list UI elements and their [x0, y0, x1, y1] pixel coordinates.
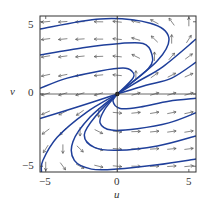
vector-arrow [184, 147, 193, 150]
vector-arrow [132, 37, 141, 40]
y-tick-label-0: 0 [28, 87, 34, 98]
vector-arrow [60, 163, 65, 170]
vector-arrow [41, 74, 50, 77]
vector-arrow [151, 36, 157, 42]
vector-arrow [61, 144, 64, 153]
vector-arrow [94, 74, 103, 77]
vector-arrow [95, 130, 103, 134]
y-axis-label: v [10, 86, 15, 97]
vector-arrow [150, 111, 159, 114]
x-tick-label-0: 0 [114, 176, 120, 187]
vector-arrow [94, 165, 103, 168]
vector-arrow [185, 54, 192, 59]
vector-arrow [186, 35, 191, 43]
y-tick-label-5: 5 [28, 19, 34, 30]
vector-arrow [167, 147, 176, 150]
vector-arrow [169, 18, 174, 25]
vector-arrow [132, 54, 140, 58]
vector-arrow [76, 55, 85, 58]
x-axis-label: u [114, 189, 120, 200]
vector-arrow [184, 130, 193, 133]
x-tick-label-neg5: −5 [39, 176, 51, 187]
y-tick-label-neg5: −5 [22, 160, 34, 171]
vector-arrow [131, 130, 140, 133]
vector-arrow [77, 146, 83, 152]
vector-arrow [167, 130, 176, 133]
vector-arrow [170, 35, 173, 44]
vector-arrow [42, 129, 49, 134]
x-tick-label-5: 5 [186, 176, 192, 187]
vector-arrow [58, 55, 67, 58]
vector-arrow [185, 73, 193, 77]
plot-area [0, 0, 207, 209]
vector-arrow [41, 38, 50, 41]
vector-arrow [94, 55, 103, 58]
vector-arrow [167, 111, 176, 114]
trajectory-traj-3 [40, 68, 134, 94]
trajectory-traj-2 [40, 43, 153, 94]
vector-arrow [131, 111, 140, 114]
vector-arrow [153, 52, 156, 61]
trajectory-traj-11 [113, 94, 196, 109]
vector-arrow [94, 38, 103, 41]
vector-arrow [58, 38, 67, 41]
vector-arrow [184, 165, 193, 168]
vector-arrow [184, 111, 193, 114]
phase-portrait-figure: 5 0 −5 −5 0 5 u v [0, 0, 207, 209]
vector-arrow [41, 55, 50, 58]
vector-arrow [150, 130, 159, 133]
vector-arrow [58, 20, 67, 23]
vector-arrow [42, 111, 50, 115]
vector-arrow [76, 38, 85, 41]
vector-arrow [94, 20, 103, 23]
vector-arrow [167, 165, 176, 168]
trajectory-traj-5 [117, 62, 196, 94]
vector-arrow [58, 74, 67, 77]
